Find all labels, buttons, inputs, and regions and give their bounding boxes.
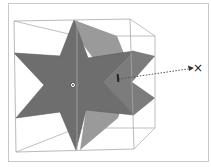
pivot-crosshair-icon[interactable] [70, 82, 75, 87]
viewport-canvas[interactable] [0, 0, 211, 167]
target-x-marker[interactable]: × [193, 62, 203, 74]
